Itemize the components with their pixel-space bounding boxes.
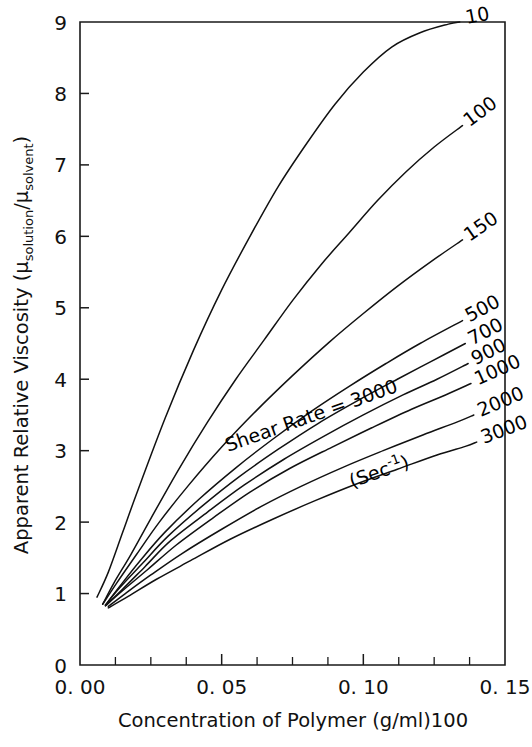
curve-shear-rate-10 [97, 22, 460, 597]
y-tick-label-4: 4 [54, 368, 67, 392]
y-tick-label-9: 9 [54, 11, 67, 35]
y-axis-ticks [80, 93, 89, 593]
x-axis-ticks [115, 654, 469, 665]
y-tick-label-1: 1 [54, 582, 67, 606]
chart-figure: 0123456789 0. 000. 050. 100. 15 10100150… [0, 0, 532, 747]
y-tick-label-7: 7 [54, 153, 67, 177]
y-tick-label-3: 3 [54, 439, 67, 463]
curve-label-10: 10 [463, 2, 491, 28]
y-tick-label-2: 2 [54, 511, 67, 535]
y-axis-title: Apparent Relative Viscosity (μsolution/μ… [10, 136, 36, 554]
y-tick-label-6: 6 [54, 225, 67, 249]
x-axis-title-text: Concentration of Polymer (g/ml)100 [118, 709, 468, 732]
x-axis-tick-labels: 0. 000. 050. 100. 15 [55, 675, 531, 699]
x-axis-title: Concentration of Polymer (g/ml)100 [118, 709, 468, 732]
viscosity-vs-concentration-chart: 0123456789 0. 000. 050. 100. 15 10100150… [0, 0, 532, 747]
y-title-close-paren: ) [10, 136, 33, 144]
y-title-subscript-solvent: solvent [21, 143, 36, 190]
y-tick-label-8: 8 [54, 82, 67, 106]
curve-label-150: 150 [459, 207, 501, 246]
x-tick-label-0.05: 0. 05 [196, 675, 247, 699]
curve-shear-rate-100 [103, 126, 463, 605]
shear-rate-annotation-line2: (Sec-1) [345, 448, 411, 491]
y-tick-label-5: 5 [54, 296, 67, 320]
y-tick-label-0: 0 [54, 654, 67, 678]
curve-shear-rate-500 [106, 321, 463, 605]
mu-symbol-2: μ [10, 191, 33, 203]
data-curves [97, 22, 477, 608]
mu-symbol-1: μ [10, 261, 33, 273]
curve-labels: 10100150500700900100020003000 [459, 2, 531, 448]
x-tick-label-0.1: 0. 10 [338, 675, 389, 699]
shear-rate-annotation: Shear Rate = 3000 (Sec-1) [222, 375, 412, 492]
x-tick-label-0.15: 0. 15 [480, 675, 531, 699]
y-axis-title-text: Apparent Relative Viscosity (μsolution/μ… [10, 136, 36, 554]
y-title-main: Apparent Relative Viscosity ( [10, 274, 33, 554]
x-tick-label-0: 0. 00 [55, 675, 106, 699]
y-title-subscript-solution: solution [21, 210, 36, 261]
curve-label-100: 100 [459, 91, 501, 130]
y-axis-tick-labels: 0123456789 [54, 11, 67, 678]
